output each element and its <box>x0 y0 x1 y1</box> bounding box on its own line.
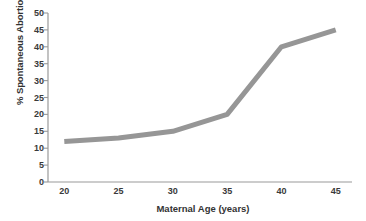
x-tick-label: 35 <box>207 186 247 196</box>
x-axis-title: Maternal Age (years) <box>48 203 358 214</box>
y-tick-label: 35 <box>22 59 44 69</box>
spontaneous-abortion-line-chart: 05101520253035404550 202530354045 % Spon… <box>0 0 366 221</box>
y-tick-label: 40 <box>22 42 44 52</box>
y-axis-title: % Spontaneous Abortion <box>14 0 25 135</box>
x-tick-label: 20 <box>44 186 84 196</box>
y-tick-label: 25 <box>22 93 44 103</box>
y-tick-label: 10 <box>22 143 44 153</box>
x-tick-label: 40 <box>261 186 301 196</box>
y-tick-label: 30 <box>22 76 44 86</box>
y-tick-label: 15 <box>22 126 44 136</box>
x-tick-label: 45 <box>316 186 356 196</box>
series-line-spontaneous-abortion <box>64 30 335 142</box>
y-tick-label: 50 <box>22 8 44 18</box>
y-tick-label: 5 <box>22 160 44 170</box>
x-tick-label: 25 <box>99 186 139 196</box>
y-tick-label: 20 <box>22 109 44 119</box>
x-tick-label: 30 <box>153 186 193 196</box>
y-tick-label: 45 <box>22 25 44 35</box>
x-axis-tick-labels: 202530354045 <box>0 186 366 200</box>
